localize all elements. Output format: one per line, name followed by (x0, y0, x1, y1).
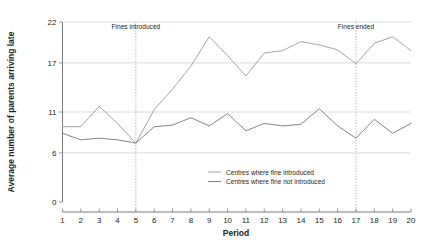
y-tick-label: 0 (52, 198, 57, 207)
x-tick-label: 10 (223, 216, 232, 225)
x-tick-label: 9 (207, 216, 212, 225)
y-tick-group: 06111722 (48, 18, 63, 207)
y-tick-label: 6 (52, 149, 57, 158)
x-tick-label: 8 (189, 216, 194, 225)
x-tick-group: 1234567891011121314151617181920 (60, 209, 416, 226)
line-chart: 06111722 1234567891011121314151617181920… (0, 0, 432, 245)
x-tick-label: 16 (333, 216, 342, 225)
data-series-2 (63, 109, 412, 143)
x-tick-label: 3 (97, 216, 102, 225)
chart-container: 06111722 1234567891011121314151617181920… (0, 0, 432, 245)
data-series-1 (63, 37, 412, 143)
x-tick-label: 2 (79, 216, 84, 225)
data-series-group (63, 37, 412, 143)
x-tick-label: 19 (388, 216, 397, 225)
x-axis-title: Period (223, 228, 249, 238)
x-tick-label: 4 (115, 216, 120, 225)
legend: Centres where fine introducedCentres whe… (208, 169, 325, 186)
x-tick-label: 17 (352, 216, 361, 225)
x-tick-label: 5 (134, 216, 139, 225)
y-tick-label: 22 (48, 18, 57, 27)
annotation-group: Fines introducedFines ended (111, 23, 374, 30)
x-tick-label: 11 (242, 216, 251, 225)
x-tick-label: 6 (152, 216, 157, 225)
legend-label-1: Centres where fine introduced (226, 169, 314, 176)
x-tick-label: 13 (278, 216, 287, 225)
x-tick-label: 15 (315, 216, 324, 225)
x-tick-label: 14 (296, 216, 305, 225)
y-axis-title: Average number of parents arriving late (6, 31, 16, 192)
annotation-label: Fines introduced (111, 23, 160, 30)
gridlines-group (63, 22, 412, 153)
x-tick-label: 7 (170, 216, 175, 225)
x-tick-label: 12 (260, 216, 269, 225)
y-tick-label: 17 (48, 59, 57, 68)
legend-label-2: Centres where fine not introduced (226, 178, 325, 185)
annotation-label: Fines ended (338, 23, 375, 30)
x-tick-label: 18 (370, 216, 379, 225)
y-tick-label: 11 (48, 108, 57, 117)
x-tick-label: 20 (407, 216, 416, 225)
x-tick-label: 1 (60, 216, 65, 225)
